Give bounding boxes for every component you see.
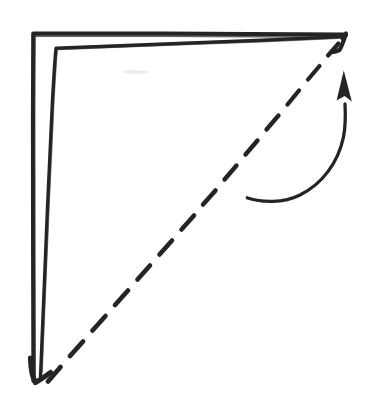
fold-diagram-canvas: Origami fold diagram Hand-drawn line dra… <box>0 0 365 409</box>
fold-dash <box>343 36 347 40</box>
origami-fold-diagram: Origami fold diagram Hand-drawn line dra… <box>0 0 365 409</box>
paper-smudge-secondary-icon <box>124 70 138 72</box>
